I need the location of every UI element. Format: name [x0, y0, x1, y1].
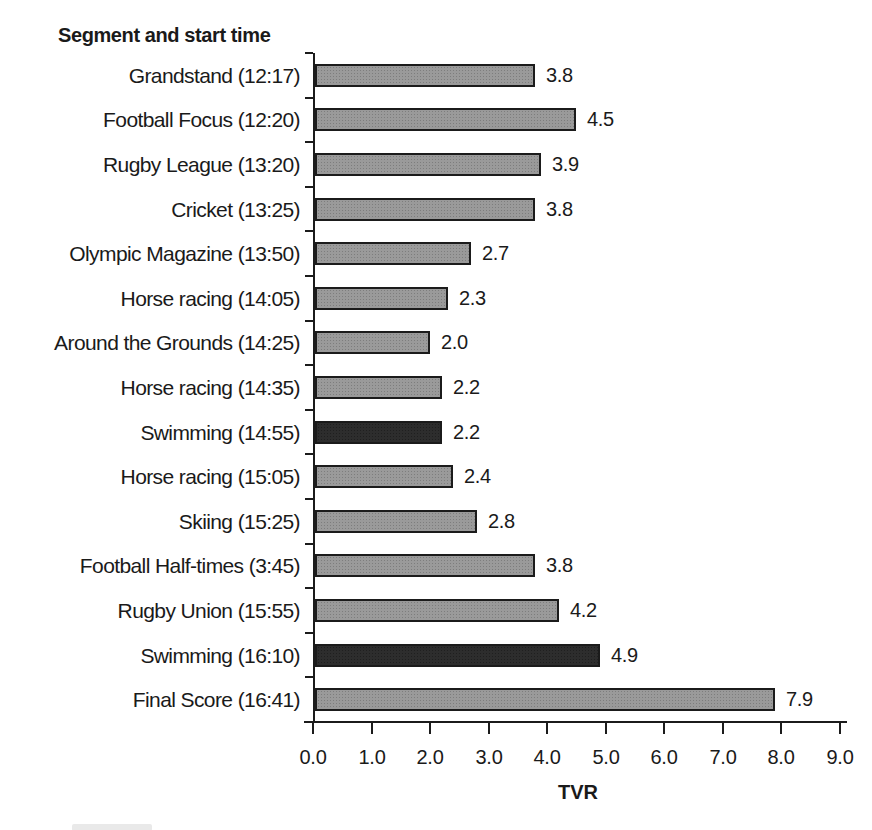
category-label: Skiing (15:25): [0, 509, 300, 534]
value-label: 2.2: [453, 375, 480, 400]
x-tick-label: 5.0: [578, 746, 634, 769]
y-axis-tick: [305, 543, 313, 545]
value-label: 4.9: [611, 643, 638, 668]
category-label: Horse racing (15:05): [0, 464, 300, 489]
bar: [315, 287, 448, 310]
y-axis-tick: [305, 498, 313, 500]
value-label: 4.5: [587, 107, 614, 132]
category-label: Football Focus (12:20): [0, 107, 300, 132]
x-tick-label: 9.0: [812, 746, 868, 769]
bar-highlighted: [315, 644, 600, 667]
category-label: Swimming (14:55): [0, 420, 300, 445]
y-axis-tick: [305, 453, 313, 455]
x-axis-tick: [546, 721, 548, 734]
y-axis-tick: [305, 320, 313, 322]
chart-title: Segment and start time: [58, 24, 270, 47]
bar: [315, 153, 541, 176]
bar: [315, 331, 430, 354]
value-label: 7.9: [786, 687, 813, 712]
y-axis-line: [313, 53, 315, 722]
x-axis-tick: [429, 721, 431, 734]
value-label: 2.2: [453, 420, 480, 445]
bar-highlighted: [315, 421, 442, 444]
x-axis-tick: [839, 721, 841, 734]
category-label: Grandstand (12:17): [0, 63, 300, 88]
bar: [315, 376, 442, 399]
value-label: 2.0: [441, 330, 468, 355]
x-axis-tick: [722, 721, 724, 734]
x-tick-label: 3.0: [461, 746, 517, 769]
bar: [315, 242, 471, 265]
y-axis-tick: [305, 364, 313, 366]
y-axis-tick: [305, 186, 313, 188]
value-label: 4.2: [570, 598, 597, 623]
x-axis-tick: [371, 721, 373, 734]
y-axis-tick: [305, 632, 313, 634]
bar: [315, 465, 453, 488]
scan-artifact: [72, 824, 152, 830]
bar: [315, 108, 576, 131]
value-label: 2.8: [488, 509, 515, 534]
x-tick-label: 6.0: [636, 746, 692, 769]
x-axis-tick: [780, 721, 782, 734]
category-label: Olympic Magazine (13:50): [0, 241, 300, 266]
x-tick-label: 2.0: [402, 746, 458, 769]
bar: [315, 198, 535, 221]
category-label: Final Score (16:41): [0, 687, 300, 712]
x-axis-title: TVR: [508, 781, 648, 804]
value-label: 3.8: [546, 63, 573, 88]
x-axis-line: [304, 721, 847, 723]
y-axis-tick: [305, 52, 313, 54]
y-axis-tick: [305, 97, 313, 99]
category-label: Horse racing (14:05): [0, 286, 300, 311]
y-axis-tick: [305, 230, 313, 232]
bar: [315, 688, 775, 711]
bar: [315, 599, 559, 622]
x-tick-label: 7.0: [695, 746, 751, 769]
x-axis-tick: [605, 721, 607, 734]
value-label: 3.8: [546, 553, 573, 578]
bar: [315, 510, 477, 533]
x-tick-label: 8.0: [753, 746, 809, 769]
value-label: 3.9: [552, 152, 579, 177]
category-label: Horse racing (14:35): [0, 375, 300, 400]
value-label: 2.3: [459, 286, 486, 311]
y-axis-tick: [305, 676, 313, 678]
x-axis-tick: [488, 721, 490, 734]
x-axis-tick: [663, 721, 665, 734]
bar: [315, 64, 535, 87]
y-axis-tick: [305, 141, 313, 143]
y-axis-tick: [305, 587, 313, 589]
category-label: Swimming (16:10): [0, 643, 300, 668]
x-tick-label: 1.0: [344, 746, 400, 769]
value-label: 3.8: [546, 197, 573, 222]
value-label: 2.7: [482, 241, 509, 266]
y-axis-tick: [305, 275, 313, 277]
bar: [315, 554, 535, 577]
y-axis-tick: [305, 409, 313, 411]
category-label: Rugby Union (15:55): [0, 598, 300, 623]
tvr-bar-chart: Segment and start time Grandstand (12:17…: [0, 0, 872, 830]
category-label: Around the Grounds (14:25): [0, 330, 300, 355]
category-label: Football Half-times (3:45): [0, 553, 300, 578]
x-axis-tick: [312, 721, 314, 734]
x-tick-label: 4.0: [519, 746, 575, 769]
category-label: Cricket (13:25): [0, 197, 300, 222]
category-label: Rugby League (13:20): [0, 152, 300, 177]
value-label: 2.4: [464, 464, 491, 489]
x-tick-label: 0.0: [285, 746, 341, 769]
